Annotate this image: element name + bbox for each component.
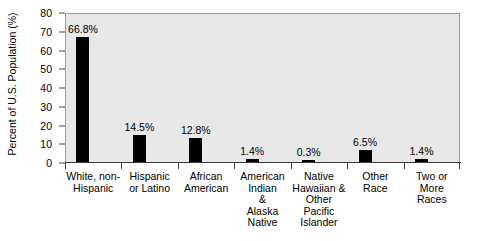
x-axis-tick-marks <box>65 163 461 169</box>
bar-value-label: 14.5% <box>115 121 163 133</box>
y-axis-tick-label: 20 <box>40 120 52 132</box>
x-axis-category-label: Other Race <box>347 171 403 194</box>
x-axis-tick-mark <box>291 163 292 169</box>
bar-value-label: 1.4% <box>228 145 276 157</box>
x-axis-category-label: White, non- Hispanic <box>65 171 121 194</box>
y-axis-tick-label: 50 <box>40 63 52 75</box>
x-axis-tick-mark <box>459 163 460 169</box>
x-axis-tick-mark <box>65 163 66 169</box>
bar-chart: Percent of U.S. Population (%) 807060504… <box>0 0 481 241</box>
bar-value-label: 0.3% <box>285 146 333 158</box>
x-axis-tick-mark <box>121 163 122 169</box>
x-axis-category-label: American Indian & Alaska Native <box>234 171 290 229</box>
x-axis-tick-mark <box>234 163 235 169</box>
x-axis-category-label: African American <box>178 171 234 194</box>
y-axis-tick-label: 60 <box>40 45 52 57</box>
x-axis-category-labels: White, non- HispanicHispanic or LatinoAf… <box>65 171 461 239</box>
plot-area: 66.8%14.5%12.8%1.4%0.3%6.5%1.4% <box>65 13 460 163</box>
bar <box>359 150 372 162</box>
bar-value-label: 12.8% <box>172 124 220 136</box>
y-axis-tick-label: 30 <box>40 101 52 113</box>
x-axis-category-label: Two or More Races <box>404 171 460 206</box>
y-axis-tick-label: 70 <box>40 26 52 38</box>
bar-value-label: 66.8% <box>59 23 107 35</box>
x-axis-category-label: Hispanic or Latino <box>121 171 177 194</box>
x-axis-tick-mark <box>178 163 179 169</box>
y-axis-title-text: Percent of U.S. Population (%) <box>5 13 17 156</box>
y-axis-tick-label: 0 <box>46 157 52 169</box>
y-axis-tick-marks <box>58 13 65 163</box>
y-axis-tick-label: 40 <box>40 82 52 94</box>
x-axis-tick-mark <box>347 163 348 169</box>
y-axis-title: Percent of U.S. Population (%) <box>0 0 22 168</box>
bar <box>133 135 146 162</box>
x-axis-category-label: Native Hawaiian & Other Pacific Islander <box>291 171 347 229</box>
bar-value-label: 6.5% <box>341 136 389 148</box>
y-axis-tick-label: 10 <box>40 138 52 150</box>
bar-value-label: 1.4% <box>398 145 446 157</box>
bar <box>76 37 89 162</box>
y-axis-tick-labels: 80706050403020100 <box>22 13 56 163</box>
y-axis-tick-label: 80 <box>40 7 52 19</box>
x-axis-tick-mark <box>404 163 405 169</box>
bar <box>189 138 202 162</box>
